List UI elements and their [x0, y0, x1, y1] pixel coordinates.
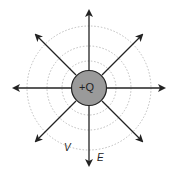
field-label: E	[97, 153, 104, 163]
charge-label: +Q	[79, 82, 94, 93]
potential-label: V	[64, 143, 71, 153]
field-line-down-left	[36, 101, 76, 141]
field-line-up-right	[102, 35, 142, 75]
field-line-down-right	[102, 101, 142, 141]
field-line-up-left	[36, 35, 76, 75]
